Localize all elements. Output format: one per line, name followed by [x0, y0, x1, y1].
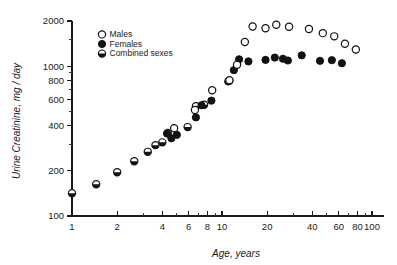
data-point	[241, 38, 248, 45]
data-point	[284, 57, 291, 64]
x-axis-title: Age, years	[211, 248, 260, 259]
legend-label: Females	[110, 39, 143, 49]
figure-container: 1002004006008001000200012468102040608010…	[0, 0, 397, 265]
data-point	[316, 57, 323, 64]
data-point	[262, 25, 269, 32]
y-tick-label: 100	[48, 210, 64, 221]
y-tick-label: 2000	[43, 15, 64, 26]
data-point	[245, 58, 252, 65]
x-tick-label: 10	[217, 221, 228, 232]
tick-label-group: 1002004006008001000200012468102040608010…	[43, 15, 380, 232]
data-point	[171, 125, 178, 132]
data-point	[262, 56, 269, 63]
data-point	[191, 106, 198, 113]
data-point	[328, 57, 335, 64]
x-tick-label: 6	[186, 221, 191, 232]
data-point	[298, 52, 305, 59]
x-tick-label: 100	[364, 221, 380, 232]
data-point	[192, 114, 199, 121]
legend-label: Males	[110, 29, 133, 39]
scatter-plot: 1002004006008001000200012468102040608010…	[0, 0, 397, 265]
y-tick-label: 800	[48, 75, 64, 86]
data-point	[338, 60, 345, 67]
data-point	[331, 33, 338, 40]
data-point	[114, 169, 121, 176]
legend-marker	[98, 50, 105, 57]
x-tick-label: 1	[69, 221, 74, 232]
data-point	[341, 40, 348, 47]
chart-legend: MalesFemalesCombined sexes	[98, 29, 172, 58]
legend-marker	[98, 31, 105, 38]
x-tick-label: 8	[205, 221, 210, 232]
data-point	[159, 139, 166, 146]
data-point	[271, 54, 278, 61]
y-tick-label: 600	[48, 94, 64, 105]
data-point	[273, 21, 280, 28]
data-point	[131, 158, 138, 165]
data-point	[93, 181, 100, 188]
data-point	[319, 30, 326, 37]
data-point	[144, 148, 151, 155]
x-tick-label: 4	[160, 221, 165, 232]
data-point	[184, 123, 191, 130]
data-point	[209, 87, 216, 94]
x-tick-label: 40	[307, 221, 318, 232]
x-tick-label: 80	[352, 221, 363, 232]
data-point	[68, 190, 75, 197]
data-point	[152, 142, 159, 149]
data-point	[233, 61, 240, 68]
x-tick-label: 60	[333, 221, 344, 232]
data-point	[305, 25, 312, 32]
y-tick-label: 400	[48, 120, 64, 131]
legend-marker	[98, 40, 105, 47]
y-tick-label: 1000	[43, 61, 64, 72]
legend-label: Combined sexes	[110, 48, 173, 58]
data-point	[352, 46, 359, 53]
x-tick-label: 20	[262, 221, 273, 232]
y-tick-label: 200	[48, 165, 64, 176]
data-point	[198, 102, 205, 109]
series-combined-sexes	[68, 77, 233, 197]
data-point	[208, 97, 215, 104]
x-tick-label: 2	[115, 221, 120, 232]
data-point	[226, 77, 233, 84]
y-axis-title: Urine Creatinine, mg / day	[11, 62, 22, 179]
data-point	[285, 23, 292, 30]
data-point	[249, 23, 256, 30]
